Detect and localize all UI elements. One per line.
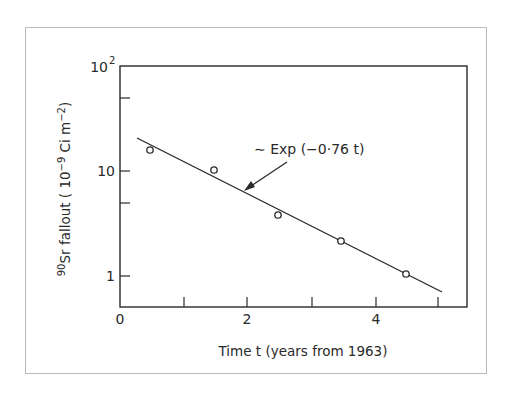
data-point: [211, 167, 217, 173]
data-point: [147, 147, 153, 153]
y-tick-label-100: 10: [90, 59, 108, 75]
data-points: [147, 147, 409, 277]
data-point: [403, 271, 409, 277]
chart: 1 10 10 2 0 2 4 Time t (years from 1963)…: [0, 0, 508, 399]
plot-area: [120, 66, 467, 307]
fit-line: [137, 138, 442, 292]
x-tick-label-2: 2: [243, 311, 252, 327]
data-point: [275, 212, 281, 218]
x-tick-label-0: 0: [116, 311, 125, 327]
y-axis-label: 90Sr fallout ( 10−9 Ci m−2): [56, 102, 73, 277]
data-point: [338, 238, 344, 244]
x-tick-label-4: 4: [372, 311, 381, 327]
annotation-arrow-shaft: [248, 162, 287, 188]
fit-annotation: ∼ Exp (−0·76 t): [254, 141, 364, 157]
y-ticks: [120, 98, 130, 276]
y-tick-label-100-exp: 2: [109, 55, 115, 66]
annotation-arrowhead-icon: [244, 181, 255, 191]
x-ticks: [184, 297, 438, 307]
x-axis-label: Time t (years from 1963): [218, 343, 388, 359]
y-tick-label-10: 10: [97, 163, 115, 179]
y-tick-label-1: 1: [106, 268, 115, 284]
